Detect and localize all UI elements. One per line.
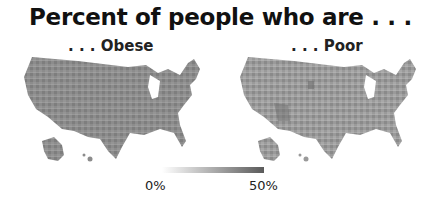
panel-label-poor: . . . Poor [291,37,363,55]
figure-title: Percent of people who are . . . [0,4,441,30]
us-map-poor [234,55,424,170]
legend-min-label: 0% [145,178,166,193]
us-map-obese [18,55,208,170]
panel-label-obese: . . . Obese [68,37,154,55]
legend-max-label: 50% [249,178,278,193]
legend-gradient-bar [162,167,264,173]
